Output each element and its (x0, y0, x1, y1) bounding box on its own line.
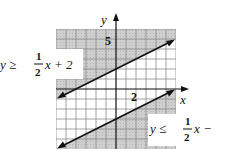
label-lower-numerator: 1 (185, 115, 191, 127)
x-axis-label: x (179, 92, 186, 107)
y-axis-arrow-icon (113, 13, 119, 21)
label-lower-lhs: y ≤ (148, 121, 166, 136)
label-upper-lhs: y ≥ (0, 57, 16, 72)
inequality-graph: y x 5 2 y ≥ 1 2 x + 2 y ≤ 1 2 x − (0, 0, 225, 150)
label-upper-numerator: 1 (36, 50, 42, 62)
label-upper-inequality: y ≥ 1 2 x + 2 (0, 49, 83, 79)
label-lower-denominator: 2 (184, 131, 190, 143)
label-upper-denominator: 2 (35, 66, 41, 78)
x-tick-label-2: 2 (131, 90, 137, 104)
y-tick-label-5: 5 (105, 34, 111, 48)
label-lower-inequality: y ≤ 1 2 x − (148, 114, 225, 146)
label-lower-rhs: x − (193, 121, 212, 136)
label-upper-rhs: x + 2 (44, 57, 73, 72)
y-axis-label: y (99, 12, 107, 27)
